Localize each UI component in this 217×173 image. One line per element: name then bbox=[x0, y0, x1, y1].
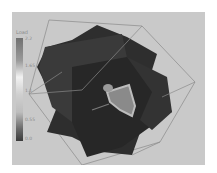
highlighted-object-lobe bbox=[103, 84, 113, 92]
legend-title: Load bbox=[16, 29, 28, 35]
legend-tick: 2.2 bbox=[25, 36, 32, 41]
legend-tick: 1.1 bbox=[25, 88, 32, 93]
legend-tick: 1.65 bbox=[25, 63, 35, 68]
legend-color-bar bbox=[16, 38, 23, 141]
bounding-box-edge bbox=[132, 142, 160, 155]
color-legend: Load 2.2 1.65 1.1 0.55 0.0 bbox=[14, 29, 42, 159]
3d-viewport[interactable]: Load 2.2 1.65 1.1 0.55 0.0 bbox=[12, 12, 205, 165]
legend-tick: 0.0 bbox=[25, 136, 32, 141]
legend-tick: 0.55 bbox=[25, 117, 35, 122]
